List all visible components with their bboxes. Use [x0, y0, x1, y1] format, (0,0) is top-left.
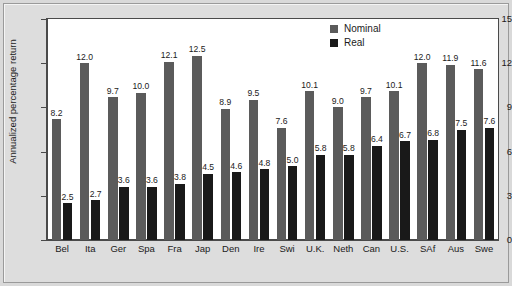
bar-real [344, 155, 354, 240]
bar-nominal [446, 65, 456, 240]
bar-group: 9.73.6 [108, 19, 129, 240]
bar-nominal [136, 93, 146, 240]
bar-nominal [192, 56, 202, 240]
bar-value-label-nominal: 8.2 [47, 109, 67, 118]
y-axis-tick [41, 63, 47, 64]
bar-value-label-nominal: 12.1 [159, 51, 179, 60]
y-axis-line [46, 18, 47, 241]
bar-value-label-nominal: 9.7 [103, 87, 123, 96]
x-axis-category-label: Can [357, 244, 385, 254]
bar-group: 9.76.4 [361, 19, 382, 240]
bar-value-label-real: 2.7 [86, 190, 106, 199]
bar-value-label-real: 3.8 [170, 173, 190, 182]
bar-value-label-nominal: 12.0 [412, 53, 432, 62]
bar-value-label-real: 5.8 [339, 144, 359, 153]
bar-real [119, 187, 129, 240]
bar-group: 9.05.8 [333, 19, 354, 240]
bar-value-label-real: 6.7 [395, 131, 415, 140]
bar-real [260, 169, 270, 240]
bar-group: 9.54.8 [249, 19, 270, 240]
bar-group: 12.02.7 [80, 19, 101, 240]
bar-value-label-nominal: 11.6 [469, 59, 489, 68]
bar-nominal [80, 63, 90, 240]
x-axis-category-label: Ita [76, 244, 104, 254]
y-axis-tick [41, 240, 47, 241]
bar-real [400, 141, 410, 240]
bar-group: 12.13.8 [164, 19, 185, 240]
bar-value-label-nominal: 8.9 [216, 98, 236, 107]
bars-container: 8.22.512.02.79.73.610.03.612.13.812.54.5… [48, 19, 498, 240]
bar-value-label-real: 5.0 [283, 156, 303, 165]
bar-group: 8.94.6 [221, 19, 242, 240]
x-axis-category-label: Fra [161, 244, 189, 254]
bar-value-label-nominal: 10.0 [131, 82, 151, 91]
bar-group: 11.97.5 [446, 19, 467, 240]
x-axis-category-label: U.S. [386, 244, 414, 254]
bar-real [232, 172, 242, 240]
bar-real [63, 203, 73, 240]
chart-screenshot: 03691215 Annualized percentage return 8.… [0, 0, 512, 286]
bar-value-label-real: 2.5 [58, 193, 78, 202]
bar-value-label-real: 6.4 [367, 135, 387, 144]
bar-real [372, 146, 382, 240]
bar-value-label-nominal: 7.6 [272, 117, 292, 126]
bar-real [147, 187, 157, 240]
legend-swatch-nominal-icon [330, 25, 338, 33]
x-axis-category-label: Ger [104, 244, 132, 254]
bar-real [175, 184, 185, 240]
bar-value-label-nominal: 10.1 [384, 81, 404, 90]
bar-nominal [249, 100, 259, 240]
bar-nominal [305, 91, 315, 240]
bar-nominal [108, 97, 118, 240]
bar-nominal [474, 69, 484, 240]
x-axis-category-label: Aus [442, 244, 470, 254]
bar-group: 10.15.8 [305, 19, 326, 240]
bar-value-label-nominal: 10.1 [300, 81, 320, 90]
x-axis-category-label: Swe [470, 244, 498, 254]
bar-value-label-real: 4.6 [227, 162, 247, 171]
bar-nominal [361, 97, 371, 240]
bar-value-label-real: 5.8 [311, 144, 331, 153]
bar-value-label-real: 6.8 [423, 129, 443, 138]
bar-value-label-nominal: 11.9 [441, 54, 461, 63]
x-axis-category-label: Bel [48, 244, 76, 254]
x-axis-category-label: U.K. [301, 244, 329, 254]
x-axis-category-label: Ire [245, 244, 273, 254]
x-axis-line [46, 240, 499, 241]
y-axis-tick [41, 152, 47, 153]
bar-group: 12.06.8 [417, 19, 438, 240]
legend-item-nominal: Nominal [330, 22, 381, 36]
bar-group: 12.54.5 [192, 19, 213, 240]
x-axis-category-label: Spa [132, 244, 160, 254]
y-axis-tick [41, 19, 47, 20]
x-axis-category-label: Jap [189, 244, 217, 254]
bar-value-label-nominal: 12.0 [75, 53, 95, 62]
bar-real [91, 200, 101, 240]
bar-value-label-real: 3.6 [114, 176, 134, 185]
bar-real [203, 174, 213, 240]
x-axis-category-label: SAf [414, 244, 442, 254]
bar-value-label-nominal: 12.5 [187, 45, 207, 54]
bar-nominal [389, 91, 399, 240]
y-axis-tick [41, 196, 47, 197]
bar-group: 11.67.6 [474, 19, 495, 240]
bar-value-label-real: 7.6 [480, 117, 500, 126]
bar-group: 8.22.5 [52, 19, 73, 240]
y-axis-title: Annualized percentage return [7, 27, 18, 177]
bar-value-label-real: 4.5 [198, 163, 218, 172]
bar-nominal [164, 62, 174, 240]
bar-group: 10.16.7 [389, 19, 410, 240]
bar-value-label-real: 4.8 [255, 159, 275, 168]
bar-nominal [221, 109, 231, 240]
legend-label-real: Real [344, 38, 365, 48]
bar-value-label-real: 7.5 [452, 119, 472, 128]
x-axis-category-label: Swi [273, 244, 301, 254]
chart-legend: Nominal Real [330, 22, 381, 50]
bar-nominal [333, 107, 343, 240]
legend-swatch-real-icon [330, 39, 338, 47]
x-axis-category-label: Den [217, 244, 245, 254]
x-axis-category-label: Neth [329, 244, 357, 254]
bar-value-label-nominal: 9.0 [328, 97, 348, 106]
bar-nominal [417, 63, 427, 240]
legend-item-real: Real [330, 36, 381, 50]
